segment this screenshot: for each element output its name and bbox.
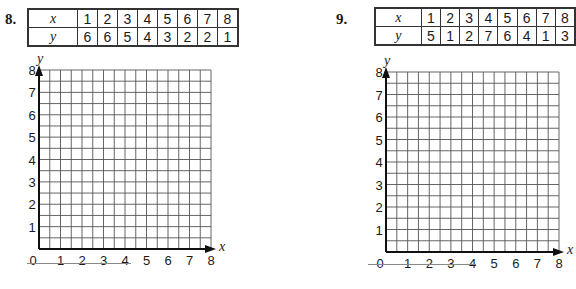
y-tick-label: 3 [375,178,382,193]
x-tick-label: 8 [555,256,562,271]
coordinate-grid[interactable]: 01234567812345678xy [0,0,576,289]
grid-lines [386,72,559,252]
x-tick-label: 5 [491,256,498,271]
y-tick-label: 4 [375,155,382,170]
x-axis-label: x [566,242,574,257]
y-tick-label: 1 [375,223,382,238]
y-tick-label: 5 [375,133,382,148]
y-tick-label: 6 [375,110,382,125]
x-tick-label: 6 [512,256,519,271]
x-tick-label: 7 [534,256,541,271]
y-tick-label: 8 [375,65,382,80]
y-axis-label: y [382,53,391,68]
y-arrow-icon [382,67,390,78]
y-tick-label: 7 [375,88,382,103]
x-arrow-icon [553,248,564,256]
answer-line[interactable] [368,264,476,265]
y-tick-label: 2 [375,200,382,215]
